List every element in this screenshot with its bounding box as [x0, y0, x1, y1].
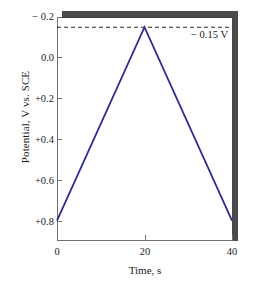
potential-waveform-trace [57, 27, 232, 220]
switching-potential-label: − 0.15 V [150, 29, 228, 41]
chart-figure: − 0.2 0.0 +0.2 +0.4 +0.6 +0.8 Potential,… [0, 0, 270, 288]
chart-canvas [0, 0, 270, 288]
